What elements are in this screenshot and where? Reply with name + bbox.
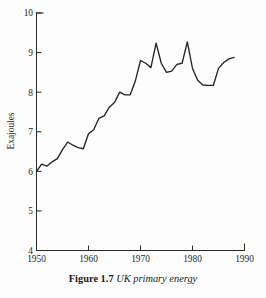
caption-title-text: UK primary energy bbox=[116, 273, 197, 284]
y-tick-label: 7 bbox=[28, 127, 33, 137]
figure-caption: Figure 1.7 UK primary energy bbox=[0, 272, 266, 285]
y-tick-label: 8 bbox=[28, 88, 33, 98]
x-tick-label: 1960 bbox=[79, 254, 98, 264]
x-tick-label: 1990 bbox=[235, 254, 254, 264]
y-tick-label: 6 bbox=[28, 167, 33, 177]
caption-figure-number: Figure 1.7 bbox=[69, 273, 114, 284]
y-axis-ticks bbox=[37, 13, 42, 251]
y-axis-label: Exajoules bbox=[6, 112, 16, 149]
line-chart: 45678910 19501960197019801990 Exajoules bbox=[0, 0, 266, 268]
figure-container: 45678910 19501960197019801990 Exajoules … bbox=[0, 0, 266, 298]
data-series-line bbox=[37, 42, 235, 171]
y-tick-label: 9 bbox=[28, 48, 33, 58]
x-tick-label: 1980 bbox=[183, 254, 202, 264]
x-axis-ticks bbox=[37, 246, 245, 251]
y-tick-label: 5 bbox=[28, 206, 33, 216]
x-axis-tick-labels: 19501960197019801990 bbox=[27, 254, 254, 264]
x-tick-label: 1950 bbox=[27, 254, 46, 264]
y-tick-label: 10 bbox=[24, 8, 34, 18]
y-axis-tick-labels: 45678910 bbox=[24, 8, 34, 256]
x-tick-label: 1970 bbox=[131, 254, 150, 264]
